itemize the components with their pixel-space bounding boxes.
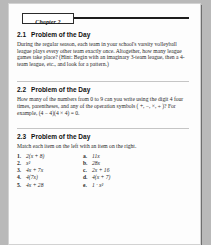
section-2-1-heading: 2.1 Problem of the Day — [17, 31, 191, 38]
item-expression: 4x + 28 — [26, 182, 43, 189]
item-expression: 4(x + 7) — [92, 174, 110, 181]
section-2-3-divider — [17, 128, 189, 129]
list-item: 4. 4(7x) — [17, 174, 79, 181]
matching-right-column: a. 11x b. 28x c. 2x + 16 d. — [83, 153, 145, 189]
section-2-2-number: 2.2 — [17, 86, 26, 93]
section-2-2-title: Problem of the Day — [31, 86, 90, 93]
chapter-tab-label: Chapter 2 — [35, 19, 60, 25]
item-expression: 4x + 7x — [26, 167, 43, 174]
matching-exercise: 1. 2(x + 8) 2. x² 3. 4x + 7x 4. — [17, 153, 191, 189]
item-marker: 1. — [17, 153, 26, 160]
chapter-tab: Chapter 2 — [22, 13, 74, 24]
item-expression: 2(x + 8) — [26, 153, 44, 160]
worksheet-page: Chapter 2 2.1 Problem of the Day During … — [8, 3, 201, 245]
section-2-1: 2.1 Problem of the Day During the regula… — [16, 31, 191, 67]
item-marker: c. — [83, 167, 92, 174]
item-expression: 2x + 16 — [92, 167, 109, 174]
item-marker: d. — [83, 174, 92, 181]
item-marker: 2. — [17, 160, 26, 167]
item-expression: 1 · x² — [92, 182, 103, 189]
section-2-2-heading: 2.2 Problem of the Day — [17, 86, 191, 93]
item-expression: x² — [26, 160, 30, 167]
matching-left-column: 1. 2(x + 8) 2. x² 3. 4x + 7x 4. — [17, 153, 79, 189]
section-2-2-body: How many of the numbers from 0 to 9 can … — [17, 96, 185, 116]
chapter-rule — [72, 17, 189, 19]
list-item: 5. 4x + 28 — [17, 182, 79, 189]
item-marker: 3. — [17, 167, 26, 174]
list-item: e. 1 · x² — [83, 182, 145, 189]
list-item: a. 11x — [83, 153, 145, 160]
item-marker: b. — [83, 160, 92, 167]
section-2-3: 2.3 Problem of the Day Match each item o… — [16, 128, 191, 189]
list-item: c. 2x + 16 — [83, 167, 145, 174]
section-2-2: 2.2 Problem of the Day How many of the n… — [16, 81, 191, 116]
list-item: d. 4(x + 7) — [83, 174, 145, 181]
list-item: 2. x² — [17, 160, 79, 167]
item-expression: 4(7x) — [26, 174, 38, 181]
section-2-1-title: Problem of the Day — [31, 31, 90, 38]
list-item: 3. 4x + 7x — [17, 167, 79, 174]
section-2-3-body: Match each item on the left with an item… — [17, 143, 185, 150]
list-item: b. 28x — [83, 160, 145, 167]
section-2-2-divider — [17, 81, 189, 82]
item-marker: a. — [83, 153, 92, 160]
section-2-3-number: 2.3 — [17, 133, 26, 140]
section-2-3-heading: 2.3 Problem of the Day — [17, 133, 191, 140]
item-expression: 28x — [92, 160, 100, 167]
section-2-1-body: During the regular season, each team in … — [17, 41, 185, 67]
document-viewport: Chapter 2 2.1 Problem of the Day During … — [0, 0, 211, 245]
item-expression: 11x — [92, 153, 100, 160]
item-marker: 5. — [17, 182, 26, 189]
item-marker: 4. — [17, 174, 26, 181]
section-2-1-number: 2.1 — [17, 31, 26, 38]
list-item: 1. 2(x + 8) — [17, 153, 79, 160]
item-marker: e. — [83, 182, 92, 189]
section-2-3-title: Problem of the Day — [31, 133, 90, 140]
chapter-header: Chapter 2 — [16, 13, 191, 26]
